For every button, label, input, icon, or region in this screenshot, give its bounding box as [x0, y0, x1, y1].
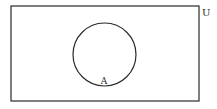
venn-diagram: U A [0, 0, 217, 109]
universal-set-label: U [202, 7, 210, 18]
universal-set-rectangle [11, 6, 199, 101]
set-a-label: A [100, 76, 108, 86]
